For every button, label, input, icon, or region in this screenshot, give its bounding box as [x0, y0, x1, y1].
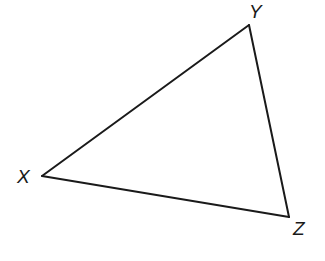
edge-zx [42, 176, 289, 217]
triangle-diagram: X Y Z [0, 0, 325, 261]
edge-xy [42, 25, 249, 176]
vertex-label-y: Y [249, 1, 263, 22]
vertex-label-x: X [16, 166, 31, 187]
vertex-label-z: Z [292, 218, 306, 239]
edge-yz [249, 25, 289, 217]
